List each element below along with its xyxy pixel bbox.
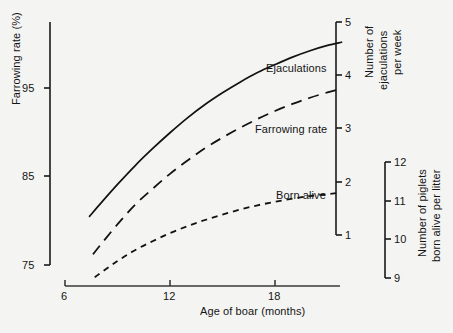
left-axis-tick-label-85: 85: [22, 170, 34, 182]
left-axis-tick-label-75: 75: [22, 259, 34, 271]
right-axis-ejaculations-tick-label-3: 3: [345, 122, 351, 134]
right-axis-ejaculations-tick-label-2: 2: [345, 176, 351, 188]
x-axis-tick-label-12: 12: [163, 290, 175, 302]
right-axis-piglets-tick-label-9: 9: [394, 272, 400, 284]
right-axis-piglets-tick-label-11: 11: [394, 195, 406, 207]
right-axis-ejaculations-title-line2: ejaculations: [377, 31, 389, 90]
right-axis-piglets-title-line2: born alive per litter: [430, 169, 442, 262]
x-axis-tick-label-6: 6: [61, 290, 67, 302]
right-axis-piglets-tick-label-10: 10: [394, 233, 406, 245]
x-axis-tick-label-18: 18: [268, 290, 280, 302]
right-axis-ejaculations-tick-label-1: 1: [345, 229, 351, 241]
series-label-farrowing-rate: Farrowing rate: [255, 123, 327, 135]
left-axis-tick-label-95: 95: [22, 82, 34, 94]
right-axis-ejaculations-title-line1: Number of: [363, 26, 375, 78]
left-axis-title: Farrowing rate (%): [10, 12, 22, 105]
chart-figure: 75 85 95 Farrowing rate (%) 6 12 18 Age …: [0, 0, 453, 333]
series-line-born-alive: [95, 193, 338, 277]
right-axis-piglets-title-line1: Number of piglets: [416, 169, 428, 257]
series-label-born-alive: Born alive: [276, 189, 326, 201]
right-axis-ejaculations-tick-label-5: 5: [345, 16, 351, 28]
x-axis-title: Age of boar (months): [200, 305, 305, 317]
right-axis-piglets-tick-label-12: 12: [394, 156, 406, 168]
right-axis-ejaculations-tick-label-4: 4: [345, 69, 351, 81]
series-label-ejaculations: Ejaculations: [266, 62, 327, 74]
right-axis-ejaculations-title-line3: per week: [391, 30, 403, 75]
